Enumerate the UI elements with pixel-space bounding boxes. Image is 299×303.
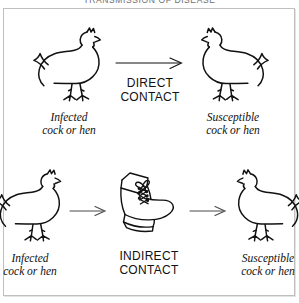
- direct-target-caption: Susceptible cock or hen: [206, 111, 260, 137]
- indirect-source-cell: Infected cock or hen: [0, 160, 69, 278]
- indirect-vector-cell: INDIRECT CONTACT: [109, 160, 189, 277]
- direct-source-caption: Infected cock or hen: [42, 111, 96, 137]
- indirect-contact-row: Infected cock or hen: [4, 160, 294, 292]
- indirect-contact-label: INDIRECT CONTACT: [119, 249, 178, 277]
- direct-contact-row: Infected cock or hen DIRECT CONTACT: [4, 18, 294, 148]
- figure-canvas: TRANSMISSION OF DISEASE: [0, 0, 299, 303]
- hen-icon: [229, 160, 299, 246]
- direct-source-cell: Infected cock or hen: [30, 18, 108, 137]
- direct-arrow-wrap: [114, 56, 186, 72]
- figure-title-strip: TRANSMISSION OF DISEASE: [0, 0, 299, 7]
- figure-title: TRANSMISSION OF DISEASE: [84, 0, 216, 5]
- indirect-target-caption: Susceptible cock or hen: [241, 252, 295, 278]
- hen-icon: [30, 18, 108, 106]
- arrow-right-icon: [189, 205, 229, 219]
- direct-contact-label: DIRECT CONTACT: [120, 76, 179, 104]
- hen-icon: [0, 160, 69, 246]
- arrow-right-icon: [114, 57, 186, 71]
- hen-icon: [194, 18, 272, 106]
- indirect-source-caption: Infected cock or hen: [3, 252, 57, 278]
- indirect-target-cell: Susceptible cock or hen: [229, 160, 299, 278]
- indirect-arrow-1-wrap: [69, 160, 109, 219]
- direct-target-cell: Susceptible cock or hen: [194, 18, 272, 137]
- indirect-arrow-2-wrap: [189, 160, 229, 219]
- direct-transmission-middle: DIRECT CONTACT: [108, 18, 192, 104]
- boot-icon: [109, 162, 189, 242]
- frame-shadow-bottom: [4, 296, 296, 297]
- arrow-right-icon: [69, 205, 109, 219]
